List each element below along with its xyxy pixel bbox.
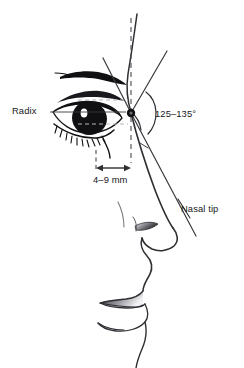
nasal-profile-diagram: Radix 125–135° 4–9 mm Nasal tip xyxy=(0,0,244,368)
lateral-canthus-shadow xyxy=(103,139,110,158)
dorsum-reference-line xyxy=(131,113,196,236)
glabella-reference-line xyxy=(131,51,167,113)
distance-measurement-arrow xyxy=(96,165,131,171)
nostril-shading xyxy=(135,222,158,230)
forehead-outline xyxy=(127,14,137,112)
radix-leader-dot xyxy=(115,111,118,114)
label-radix: Radix xyxy=(12,106,36,115)
upper-lip-outline xyxy=(100,291,143,308)
iris-highlight xyxy=(81,108,88,117)
label-nasofrontal-angle: 125–135° xyxy=(155,109,196,118)
eyebrow xyxy=(60,71,127,85)
alar-groove xyxy=(133,217,136,231)
cheek-outline xyxy=(118,202,124,227)
label-radix-depth: 4–9 mm xyxy=(93,175,127,184)
nasal-dorsum-outline xyxy=(131,113,173,228)
label-nasal-tip: Nasal tip xyxy=(181,204,218,213)
chin-outline xyxy=(136,322,146,368)
radix-vertex-inner xyxy=(130,112,133,115)
nasal-tip-outline xyxy=(142,228,177,251)
